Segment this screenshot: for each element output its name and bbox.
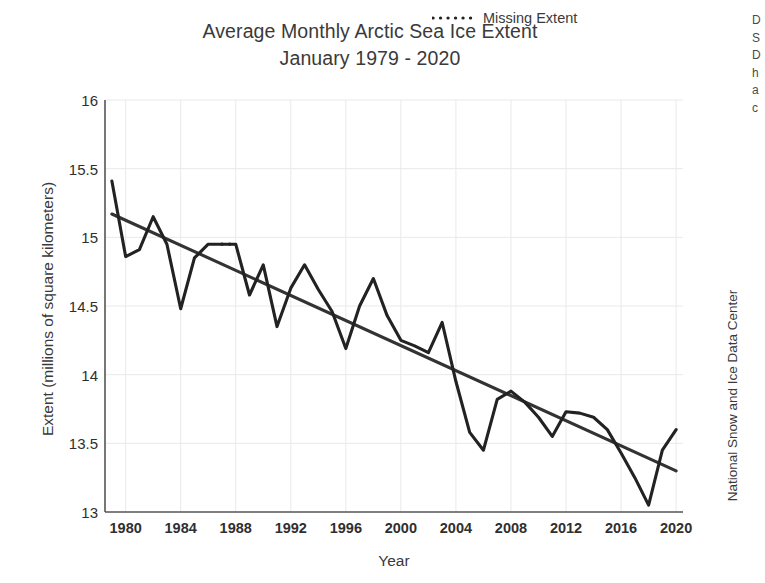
y-tick-label: 14 bbox=[81, 366, 98, 383]
x-tick-label: 2016 bbox=[605, 520, 637, 536]
y-tick-label: 15.5 bbox=[69, 160, 98, 177]
x-tick-label: 2004 bbox=[440, 520, 472, 536]
edge-text-line-4: h bbox=[752, 65, 765, 83]
clipped-edge-text: D S D h a c bbox=[752, 12, 765, 117]
y-tick-label: 13 bbox=[81, 504, 98, 521]
chart-canvas bbox=[105, 100, 683, 512]
x-tick-label: 1980 bbox=[110, 520, 142, 536]
trend-line bbox=[112, 214, 676, 471]
y-tick-label: 14.5 bbox=[69, 298, 98, 315]
legend-label-missing-extent: Missing Extent bbox=[483, 10, 577, 26]
gridlines bbox=[105, 100, 683, 512]
x-tick-label: 1988 bbox=[220, 520, 252, 536]
x-tick-label: 2008 bbox=[495, 520, 527, 536]
edge-text-line-5: a bbox=[752, 82, 765, 100]
edge-text-line-3: D bbox=[752, 47, 765, 65]
x-tick-label: 2020 bbox=[660, 520, 692, 536]
y-tick-label: 16 bbox=[81, 92, 98, 109]
x-tick-label: 2000 bbox=[385, 520, 417, 536]
x-tick-label: 1992 bbox=[275, 520, 307, 536]
edge-text-line-6: c bbox=[752, 100, 765, 118]
edge-text-line-1: D bbox=[752, 12, 765, 30]
y-axis-label: Extent (millions of square kilometers) bbox=[39, 119, 57, 499]
chart-title-line-2: January 1979 - 2020 bbox=[60, 45, 680, 72]
x-tick-label: 2012 bbox=[550, 520, 582, 536]
chart-title: Average Monthly Arctic Sea Ice Extent Ja… bbox=[60, 18, 680, 72]
x-tick-label: 1984 bbox=[165, 520, 197, 536]
data-source-credit: National Snow and Ice Data Center bbox=[725, 246, 740, 546]
plot-area: 1615.51514.51413.513 1980198419881992199… bbox=[105, 100, 683, 512]
x-axis-label: Year bbox=[105, 552, 683, 570]
edge-text-line-2: S bbox=[752, 30, 765, 48]
missing-extent-line-icon bbox=[432, 13, 474, 23]
chart-legend: Missing Extent bbox=[432, 10, 577, 26]
y-tick-label: 15 bbox=[81, 229, 98, 246]
y-tick-label: 13.5 bbox=[69, 435, 98, 452]
x-tick-label: 1996 bbox=[330, 520, 362, 536]
